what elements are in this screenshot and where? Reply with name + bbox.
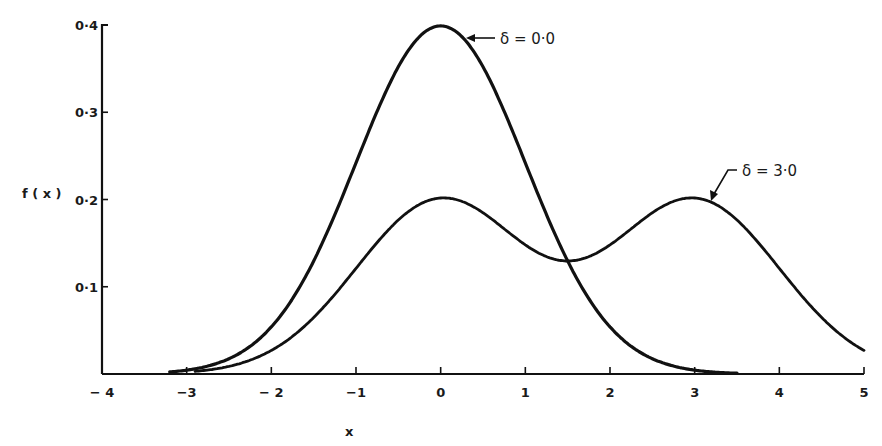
x-tick-label: 4 [775,385,784,400]
x-tick-label: − 2 [259,385,283,400]
x-tick-label: 5 [859,385,868,400]
x-tick-label: −1 [346,385,366,400]
x-tick-label: −3 [177,385,197,400]
x-tick-label: 0 [436,385,445,400]
x-tick-label: 3 [690,385,699,400]
y-tick-label: 0·4 [75,18,98,33]
arrow-icon [710,190,718,201]
x-ticks: − 4−3− 2−1012345 [90,367,869,400]
annotation-delta-3: δ = 3·0 [710,162,797,201]
curve-delta-3 [195,198,864,372]
y-tick-label: 0·1 [75,280,98,295]
annotation-delta-0: δ = 0·0 [466,30,555,48]
x-tick-label: 2 [605,385,614,400]
y-axis-label: f ( x ) [22,186,62,201]
density-chart: 0·10·20·30·4 − 4−3− 2−1012345 f ( x ) x … [0,0,882,446]
x-tick-label: 1 [521,385,530,400]
x-tick-label: − 4 [90,385,114,400]
svg-text:δ = 3·0: δ = 3·0 [742,162,797,180]
x-axis-label: x [345,424,354,439]
y-tick-label: 0·3 [75,105,98,120]
y-tick-label: 0·2 [75,193,98,208]
svg-text:δ = 0·0: δ = 0·0 [500,30,555,48]
